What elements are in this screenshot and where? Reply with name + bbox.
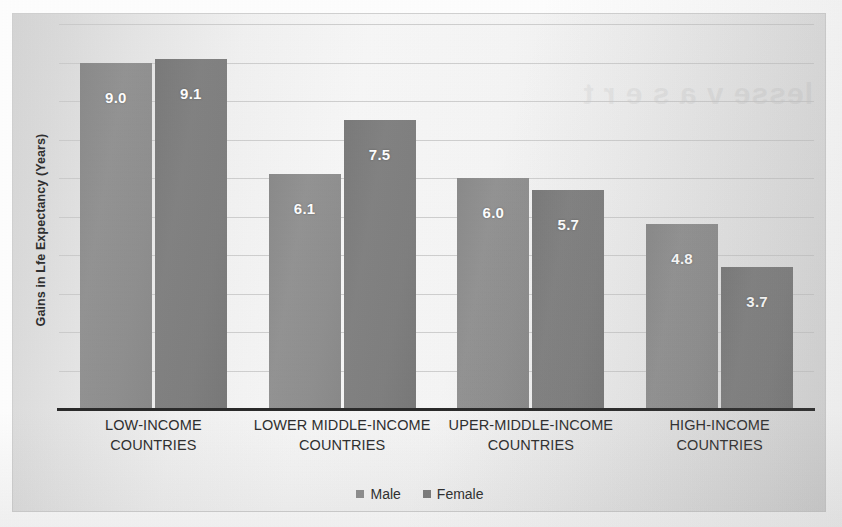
bar-fill	[155, 59, 227, 409]
y-axis-title: Gains in Lfe Expectancy (Years)	[31, 80, 51, 380]
x-axis-category-labels: LOW-INCOME COUNTRIESLOWER MIDDLE-INCOME …	[59, 416, 814, 478]
plot-area: 9.09.16.17.56.05.74.83.7	[59, 24, 814, 409]
bar-male-2: 6.1	[269, 174, 341, 409]
bar-value-label: 9.1	[155, 85, 227, 102]
chart-legend: MaleFemale	[13, 486, 826, 502]
x-axis-line	[57, 408, 815, 411]
bar-female-4: 3.7	[721, 267, 793, 409]
legend-label: Male	[370, 486, 400, 502]
scanned-chart-page: lesse v a s e r t 9.09.16.17.56.05.74.83…	[0, 0, 842, 527]
bar-fill	[344, 120, 416, 409]
bar-value-label: 9.0	[80, 89, 152, 106]
bar-value-label: 5.7	[532, 216, 604, 233]
bar-male-4: 4.8	[646, 224, 718, 409]
gridline	[59, 24, 814, 25]
legend-item-male[interactable]: Male	[356, 486, 400, 502]
bar-female-3: 5.7	[532, 190, 604, 409]
bar-fill	[80, 63, 152, 410]
bar-male-1: 9.0	[80, 63, 152, 410]
y-axis-title-text: Gains in Lfe Expectancy (Years)	[34, 134, 48, 327]
bar-value-label: 3.7	[721, 293, 793, 310]
category-label-4: HIGH-INCOME COUNTRIES	[625, 416, 814, 478]
legend-swatch-icon	[423, 490, 431, 498]
bar-fill	[721, 267, 793, 409]
bar-female-2: 7.5	[344, 120, 416, 409]
legend-item-female[interactable]: Female	[423, 486, 484, 502]
bar-value-label: 4.8	[646, 250, 718, 267]
bar-female-1: 9.1	[155, 59, 227, 409]
chart-frame: lesse v a s e r t 9.09.16.17.56.05.74.83…	[12, 13, 826, 512]
bar-male-3: 6.0	[457, 178, 529, 409]
category-label-2: LOWER MIDDLE-INCOME COUNTRIES	[248, 416, 437, 478]
legend-swatch-icon	[356, 490, 364, 498]
category-label-3: UPER-MIDDLE-INCOME COUNTRIES	[437, 416, 626, 478]
bar-value-label: 6.0	[457, 204, 529, 221]
bar-value-label: 6.1	[269, 200, 341, 217]
bar-value-label: 7.5	[344, 146, 416, 163]
category-label-1: LOW-INCOME COUNTRIES	[59, 416, 248, 478]
legend-label: Female	[437, 486, 484, 502]
